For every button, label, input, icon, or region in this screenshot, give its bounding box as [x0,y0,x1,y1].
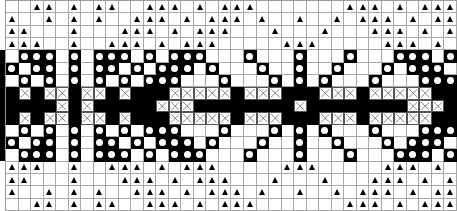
triangle-cell [432,1,445,13]
cross-icon [434,102,443,110]
filled-cell [444,100,457,112]
empty-cell [56,26,69,38]
empty-cell [156,174,169,186]
empty-cell [231,137,244,149]
cross-icon [121,114,130,122]
filled-cell-with-dot [144,75,157,87]
empty-cell [244,162,257,174]
empty-cell [257,50,270,62]
empty-cell [194,63,207,75]
empty-cell [394,137,407,149]
filled-cell-with-dot [94,50,107,62]
triangle-cell [432,186,445,198]
crossed-cell [119,87,132,99]
empty-cell [156,26,169,38]
filled-cell-with-dot [106,137,119,149]
filled-cell [432,112,445,124]
filled-cell-with-dot [94,149,107,161]
filled-cell-with-dot [407,50,420,62]
empty-cell [219,149,232,161]
empty-cell [156,149,169,161]
empty-cell [432,50,445,62]
empty-cell [257,1,270,13]
empty-cell [194,75,207,87]
cross-icon [409,114,418,122]
empty-cell [81,137,94,149]
triangle-cell [206,26,219,38]
filled-cell [432,87,445,99]
empty-cell [407,125,420,137]
empty-cell [382,1,395,13]
crossed-cell [369,112,382,124]
empty-cell [44,26,57,38]
filled-cell [307,100,320,112]
triangle-cell [31,162,44,174]
triangle-cell [44,186,57,198]
empty-cell [131,125,144,137]
triangle-cell [219,174,232,186]
filled-cell-with-dot [269,125,282,137]
crossed-cell [44,87,57,99]
filled-cell [144,87,157,99]
empty-cell [206,50,219,62]
triangle-cell [444,199,457,211]
triangle-cell [307,162,320,174]
filled-cell-with-dot [94,137,107,149]
crossed-cell [156,100,169,112]
triangle-cell [69,1,82,13]
triangle-cell [432,199,445,211]
triangle-cell [131,186,144,198]
filled-cell-with-dot [194,149,207,161]
empty-cell [307,137,320,149]
filled-cell-with-dot [169,149,182,161]
triangle-cell [394,174,407,186]
triangle-cell [69,38,82,50]
filled-cell-with-dot [156,125,169,137]
filled-cell [106,87,119,99]
filled-cell [444,112,457,124]
filled-cell-with-dot [119,50,132,62]
triangle-cell [131,26,144,38]
empty-cell [432,149,445,161]
triangle-cell [181,13,194,25]
triangle-cell [144,186,157,198]
empty-cell [194,125,207,137]
filled-cell-with-dot [94,63,107,75]
empty-cell [307,75,320,87]
empty-cell [144,137,157,149]
empty-cell [81,149,94,161]
cross-icon [171,102,180,110]
empty-cell [282,186,295,198]
filled-cell [357,87,370,99]
filled-cell-with-dot [407,149,420,161]
triangle-cell [394,162,407,174]
cross-icon [396,114,405,122]
triangle-cell [219,13,232,25]
filled-cell-with-dot [181,50,194,62]
triangle-cell [181,162,194,174]
empty-cell [56,38,69,50]
triangle-cell [144,13,157,25]
filled-cell [131,112,144,124]
triangle-cell [432,162,445,174]
triangle-cell [6,38,19,50]
crossed-cell [56,112,69,124]
cross-icon [246,89,255,97]
triangle-cell [294,186,307,198]
empty-cell [81,38,94,50]
filled-cell-with-dot [31,149,44,161]
crossed-cell [19,112,32,124]
filled-cell [282,100,295,112]
filled-cell-with-dot [444,75,457,87]
filled-cell-with-dot [156,63,169,75]
empty-cell [106,13,119,25]
empty-cell [319,63,332,75]
empty-cell [231,38,244,50]
triangle-cell [144,1,157,13]
filled-cell-with-dot [19,149,32,161]
empty-cell [131,1,144,13]
filled-cell-with-dot [169,50,182,62]
triangle-cell [94,1,107,13]
crossed-cell [369,87,382,99]
empty-cell [432,26,445,38]
